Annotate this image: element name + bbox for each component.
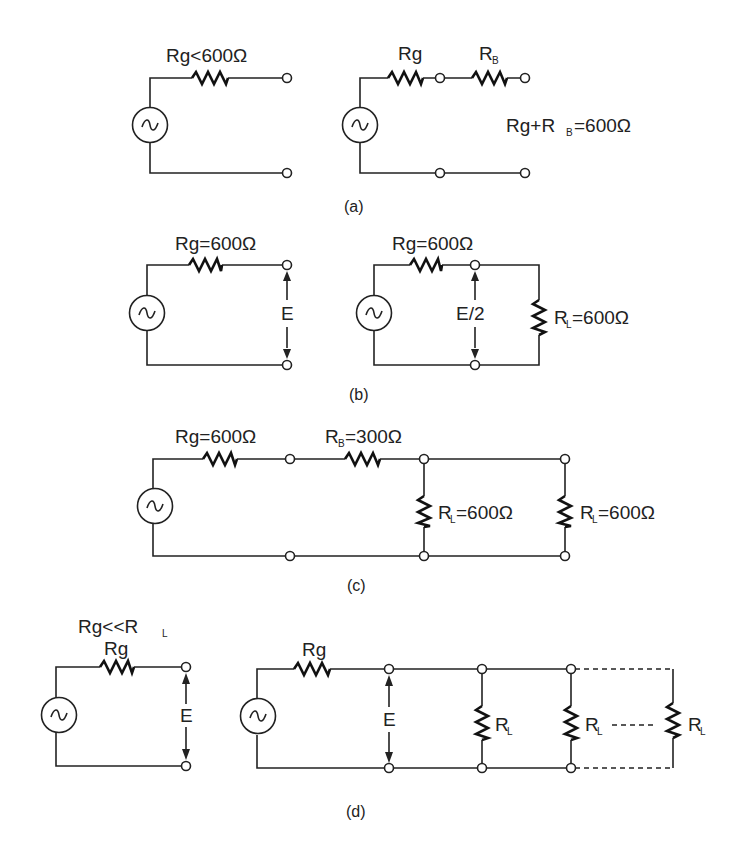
rl1-value: =600Ω [456, 502, 513, 523]
ac-source-icon [241, 699, 276, 734]
caption-c: (c) [347, 577, 366, 594]
ac-source-icon [133, 108, 168, 143]
arrow-up-icon [385, 675, 393, 686]
arrow-down-icon [471, 349, 479, 359]
equation-part1: Rg+R [506, 115, 555, 136]
output-terminal-bottom [283, 169, 292, 178]
node-top [471, 261, 480, 270]
voltage-label: E/2 [456, 303, 485, 324]
caption-b: (b) [349, 386, 369, 403]
rg-resistor [388, 72, 423, 84]
rb-label: R [325, 426, 339, 447]
rl1-resistor [476, 706, 488, 740]
rl-value: =600Ω [572, 307, 629, 328]
ac-source-icon [138, 489, 173, 524]
ac-source-icon [42, 698, 77, 733]
rg-label: Rg=600Ω [392, 233, 473, 254]
output-terminal-top [283, 261, 292, 270]
rg-label: Rg<600Ω [166, 45, 247, 66]
arrow-down-icon [385, 752, 393, 763]
ac-source-icon [343, 108, 378, 143]
rl3-resistor [667, 703, 679, 738]
voltage-label: E [383, 709, 396, 730]
arrow-up-icon [283, 271, 291, 281]
panel-c-circuit: Rg=600Ω R B =300Ω R L =600Ω R L =600Ω [138, 426, 656, 561]
terminal-mid-bottom [436, 169, 445, 178]
rg-label: Rg [398, 43, 422, 64]
condition-label: Rg<<R [78, 616, 138, 637]
rg-label: Rg=600Ω [175, 426, 256, 447]
rl2-value: =600Ω [598, 502, 655, 523]
circuit-diagram: Rg<600Ω Rg R B Rg+R B =600Ω (a) E Rg=600… [0, 0, 741, 857]
rl2-resistor [559, 496, 571, 527]
panel-b-left-circuit: E Rg=600Ω [130, 233, 294, 370]
ac-source-icon [357, 296, 392, 331]
voltage-label: E [180, 705, 193, 726]
panel-a-left-circuit: Rg<600Ω [133, 45, 292, 178]
terminal-out-bottom [521, 169, 530, 178]
rb-value: =300Ω [345, 426, 402, 447]
arrow-up-icon [471, 271, 479, 281]
voltage-label: E [281, 303, 294, 324]
rb-label: R [479, 43, 493, 64]
panel-d-left-circuit: Rg<<R L E Rg [42, 616, 193, 771]
rl1-subscript: L [507, 726, 513, 737]
panel-d-right-circuit: E Rg R L R L R L [241, 639, 707, 773]
terminal-out-top [521, 74, 530, 83]
output-terminal-top [283, 74, 292, 83]
ac-source-icon [130, 296, 165, 331]
rb-subscript: B [338, 438, 345, 449]
rl2-subscript: L [597, 726, 603, 737]
rb-label-subscript: B [492, 55, 499, 66]
rg-resistor [192, 72, 228, 84]
panel-b-right-circuit: E/2 Rg=600Ω R L =600Ω [357, 233, 630, 370]
rl-resistor [533, 300, 545, 335]
arrow-down-icon [182, 749, 190, 760]
caption-d: (d) [346, 803, 366, 820]
terminal-mid-top [436, 74, 445, 83]
rl3-subscript: L [700, 726, 706, 737]
equation-subscript: B [566, 127, 573, 138]
rg-label: Rg=600Ω [175, 233, 256, 254]
rg-label: Rg [302, 639, 326, 660]
caption-a: (a) [344, 198, 364, 215]
node-bottom [471, 361, 480, 370]
rb-resistor [472, 72, 507, 84]
panel-a-right-circuit: Rg R B Rg+R B =600Ω [343, 43, 632, 178]
equation-part2: =600Ω [574, 115, 631, 136]
arrow-up-icon [182, 673, 190, 684]
rl1-resistor [418, 496, 430, 527]
output-terminal-bottom [283, 361, 292, 370]
rl2-resistor [565, 706, 577, 740]
rg-label: Rg [104, 638, 128, 659]
arrow-down-icon [283, 349, 291, 359]
condition-subscript: L [162, 628, 168, 639]
